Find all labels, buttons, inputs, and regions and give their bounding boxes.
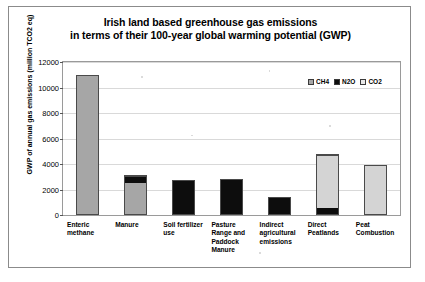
bar[interactable]: [364, 165, 387, 215]
bar-segment-n2o: [317, 208, 338, 214]
x-axis-label-line: Direct: [308, 221, 350, 229]
x-axis-label-line: use: [163, 229, 205, 237]
chart-legend: CH4 N2O CO2: [306, 77, 384, 86]
legend-item-ch4: CH4: [308, 78, 329, 85]
legend-label-n2o: N2O: [342, 78, 355, 85]
bar-segment-co2: [365, 166, 386, 214]
x-axis-label: Indirectagriculturalemissions: [256, 221, 304, 255]
bar-slot: [63, 62, 111, 215]
x-axis-label-line: Pasture: [211, 221, 253, 229]
x-axis-label: Entericmethane: [63, 221, 111, 255]
y-axis-tick-label: 4000: [13, 160, 59, 169]
y-axis-tick-label: 0: [13, 211, 59, 220]
x-axis-label-line: Paddock: [211, 238, 253, 246]
x-axis-label-line: Combustion: [356, 229, 398, 237]
bar-segment-n2o: [221, 180, 242, 214]
y-axis-tick-label: 6000: [13, 135, 59, 144]
bar-segment-n2o: [269, 198, 290, 214]
x-axis-label-line: Manure: [115, 221, 157, 229]
bar[interactable]: [316, 154, 339, 215]
y-axis-tick-label: 2000: [13, 186, 59, 195]
x-axis-labels: EntericmethaneManureSoil fertilizerusePa…: [63, 221, 400, 255]
x-axis-label-line: agricultural: [260, 229, 302, 237]
x-axis-label-line: Manure: [211, 246, 253, 254]
x-axis-label-line: Range and: [211, 229, 253, 237]
x-axis-label-line: Indirect: [260, 221, 302, 229]
legend-label-co2: CO2: [368, 78, 381, 85]
x-axis-label: PastureRange andPaddockManure: [207, 221, 255, 255]
x-axis-label-line: methane: [67, 229, 109, 237]
legend-swatch-n2o-icon: [334, 79, 340, 85]
legend-item-co2: CO2: [360, 78, 381, 85]
y-axis-tick-label: 8000: [13, 109, 59, 118]
x-axis-label-line: Peat: [356, 221, 398, 229]
scan-speck: [329, 125, 331, 127]
legend-item-n2o: N2O: [334, 78, 355, 85]
x-axis-label: Soil fertilizeruse: [159, 221, 207, 255]
scan-speck: [269, 70, 270, 72]
chart-title-line-1: Irish land based greenhouse gas emission…: [9, 16, 412, 29]
x-axis-label: Manure: [111, 221, 159, 255]
legend-swatch-co2-icon: [360, 79, 366, 85]
bar[interactable]: [124, 175, 147, 215]
y-axis-tick-mark: [60, 215, 63, 216]
bar-slot: [111, 62, 159, 215]
bar-segment-n2o: [125, 176, 146, 183]
bar-segment-ch4: [125, 183, 146, 214]
legend-label-ch4: CH4: [316, 78, 329, 85]
x-axis-label-line: emissions: [260, 238, 302, 246]
chart-title-line-2: in terms of their 100-year global warmin…: [9, 29, 412, 42]
bar-slot: [256, 62, 304, 215]
bar-slot: [207, 62, 255, 215]
x-axis-label: DirectPeatlands: [304, 221, 352, 255]
x-axis-label-line: Peatlands: [308, 229, 350, 237]
x-axis-label-line: Soil fertilizer: [163, 221, 205, 229]
x-axis-label: PeatCombustion: [352, 221, 400, 255]
bar[interactable]: [220, 179, 243, 215]
scanned-page-frame: Irish land based greenhouse gas emission…: [8, 6, 411, 268]
y-axis-tick-label: 10000: [13, 84, 59, 93]
scan-speck: [191, 135, 193, 136]
scan-speck: [141, 76, 143, 78]
bar[interactable]: [172, 180, 195, 215]
x-axis-label-line: Enteric: [67, 221, 109, 229]
bar-slot: [159, 62, 207, 215]
bar-segment-co2: [317, 155, 338, 208]
bar[interactable]: [268, 197, 291, 215]
scan-speck: [259, 252, 261, 254]
bar-segment-ch4: [77, 76, 98, 214]
legend-swatch-ch4-icon: [308, 79, 314, 85]
chart-title: Irish land based greenhouse gas emission…: [9, 16, 412, 42]
bar[interactable]: [76, 75, 99, 215]
y-axis-title: GWP of annual gas emissions (million TCO…: [26, 15, 33, 175]
bar-segment-n2o: [173, 181, 194, 214]
y-axis-tick-label: 12000: [13, 58, 59, 67]
